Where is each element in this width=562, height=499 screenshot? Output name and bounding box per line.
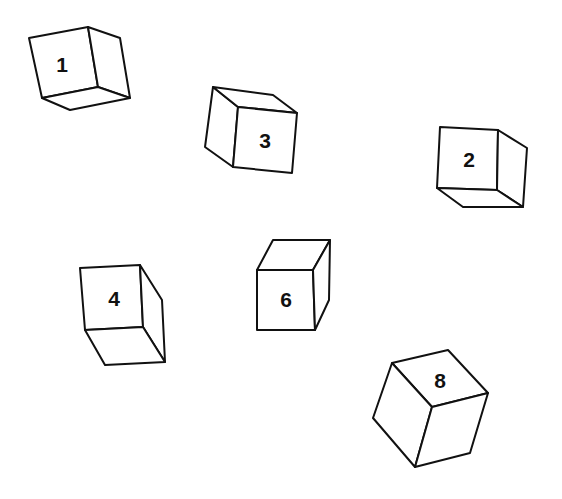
cube-8: 8: [373, 350, 488, 467]
cube-6-label: 6: [280, 288, 292, 311]
cube-8-label: 8: [434, 369, 446, 392]
cubes-diagram: 1 3 2 4 6 8: [0, 0, 562, 499]
cube-6: 6: [257, 240, 330, 330]
cube-4: 4: [80, 265, 165, 365]
cube-3: 3: [205, 87, 297, 173]
cube-1: 1: [29, 27, 130, 110]
cube-2-label: 2: [463, 148, 475, 171]
cube-1-label: 1: [56, 53, 68, 76]
cube-3-label: 3: [259, 129, 271, 152]
cube-2: 2: [437, 127, 527, 207]
cube-4-label: 4: [108, 287, 120, 310]
